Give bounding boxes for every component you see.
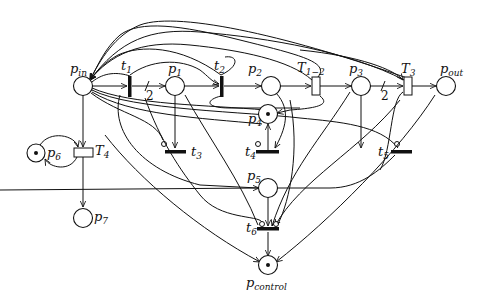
label-p-out: pout [440,61,464,78]
place-p7 [74,209,93,228]
label-t2: t2 [214,58,225,75]
transition-T1-2 [312,77,320,95]
transition-t5 [391,150,412,154]
label-p5: p5 [247,168,261,185]
petri-net-diagram: pin t1 2 p1 t2 p2 T1−2 p3 2 T3 pout p4 t… [0,0,488,305]
place-p1 [166,77,185,96]
label-t3: t3 [191,144,202,161]
transition-t3 [165,150,186,154]
transition-t2 [220,76,224,97]
label-t6: t6 [246,220,257,237]
label-t4: t4 [245,144,256,161]
label-weight-t1-p1: 2 [146,89,154,103]
token-p-control [266,263,270,267]
place-p2 [262,77,281,96]
label-weight-p3-T3: 2 [381,89,389,103]
label-p6: p6 [47,145,61,162]
place-p-in [74,77,93,96]
label-p1: p1 [168,61,182,78]
transition-t6 [257,227,279,231]
transition-t1 [128,76,132,97]
label-p-control: pcontrol [246,275,287,292]
transition-t4 [256,150,279,154]
label-T1-2: T1−2 [297,60,325,77]
transition-T3 [404,77,412,95]
place-p5 [259,179,278,198]
label-p2: p2 [248,61,262,78]
transition-T4 [74,148,93,157]
label-t1: t1 [121,58,132,75]
token-p4 [266,112,270,116]
place-p-out [437,77,456,96]
label-p7: p7 [94,209,108,226]
places [27,77,456,275]
label-p3: p3 [349,61,363,78]
token-p6 [34,151,38,155]
label-T3: T3 [401,61,416,78]
label-T4: T4 [95,143,110,160]
place-p3 [352,77,371,96]
label-p-in: pin [70,61,87,78]
